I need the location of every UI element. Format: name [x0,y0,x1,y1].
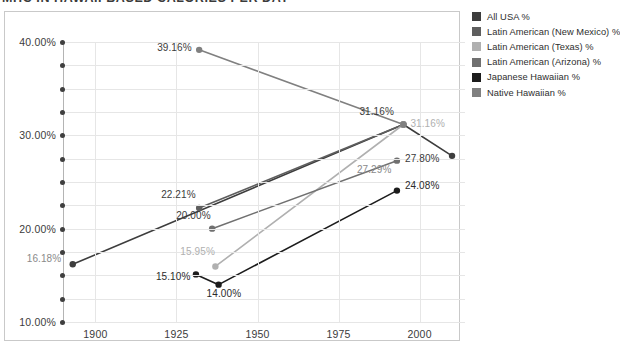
legend-item[interactable]: All USA % [472,9,612,24]
data-point-marker [212,263,218,269]
y-axis-label: 20.00% [19,223,56,235]
gridline-vertical [95,42,96,322]
data-point-marker [196,47,202,53]
gridline-vertical [339,42,340,322]
gridline-horizontal [63,205,465,206]
legend-item-label: Latin American (New Mexico) % [487,27,620,37]
series-line [73,125,452,265]
legend-swatch-icon [472,42,481,51]
legend-item[interactable]: Native Hawaiian % [472,85,612,100]
plot-area: 39.16%31.16%31.16%27.80%27.29%24.08%22.2… [63,42,465,322]
data-point-label: 27.29% [357,164,392,175]
data-point-label: 15.95% [180,246,215,257]
y-axis-label-wrap: 10.00% [5,316,56,328]
legend-swatch-icon [472,27,481,36]
legend-item[interactable]: Latin American (Arizona) % [472,55,612,70]
gridline-horizontal [63,135,465,136]
gridline-horizontal [63,299,465,300]
chart-legend: All USA %Latin American (New Mexico) %La… [472,9,612,100]
y-axis-label: 40.00% [19,36,56,48]
y-axis-tick [60,157,65,162]
gridline-horizontal [63,322,465,323]
gridline-horizontal [63,275,465,276]
data-point-label: 31.16% [410,118,445,129]
gridline-horizontal [63,229,465,230]
data-point-marker [400,121,406,127]
legend-item-label: Japanese Hawaiian % [487,72,580,82]
x-axis-label: 2000 [395,328,445,340]
data-point-label: 39.16% [157,42,192,53]
data-point-label: 20.00% [176,210,211,221]
legend-item-label: Latin American (Texas) % [487,42,594,52]
x-axis-label: 1925 [151,328,201,340]
y-axis-label-wrap: 20.00% [5,223,56,235]
legend-item[interactable]: Japanese Hawaiian % [472,70,612,85]
legend-item[interactable]: Latin American (Texas) % [472,39,612,54]
data-point-label: 14.00% [207,288,242,299]
legend-item-label: Native Hawaiian % [487,88,566,98]
y-axis-label: 10.00% [19,316,56,328]
y-axis-label: 30.00% [19,129,56,141]
y-axis-tick [60,87,65,92]
y-axis-label-wrap: 30.00% [5,129,56,141]
chart-title: MHC IN HAWAII BASED CALORIES PER DAY [2,0,289,5]
data-point-label: 16.18% [27,253,62,264]
x-axis-label: 1900 [70,328,120,340]
y-axis-tick [60,110,65,115]
series-line [215,125,403,267]
legend-swatch-icon [472,88,481,97]
data-point-marker [394,187,400,193]
legend-item-label: All USA % [487,12,530,22]
legend-item-label: Latin American (Arizona) % [487,57,601,67]
y-axis-label-wrap: 40.00% [5,36,56,48]
gridline-horizontal [63,42,465,43]
data-point-label: 15.10% [156,271,191,282]
gridline-horizontal [63,112,465,113]
legend-swatch-icon [472,12,481,21]
plot-frame: 39.16%31.16%31.16%27.80%27.29%24.08%22.2… [4,11,460,341]
legend-swatch-icon [472,58,481,67]
y-axis-tick [60,227,65,232]
y-axis-tick [60,320,65,325]
x-axis-label: 1950 [233,328,283,340]
y-axis-tick [60,297,65,302]
data-point-label: 27.80% [405,153,440,164]
x-axis-label: 1975 [314,328,364,340]
gridline-vertical [258,42,259,322]
data-point-label: 22.21% [161,189,196,200]
gridline-horizontal [63,65,465,66]
gridline-horizontal [63,89,465,90]
legend-item[interactable]: Latin American (New Mexico) % [472,24,612,39]
y-axis-tick [60,40,65,45]
y-axis-tick [60,180,65,185]
gridline-horizontal [63,252,465,253]
legend-swatch-icon [472,73,481,82]
data-point-marker [70,261,76,267]
data-point-label: 31.16% [359,106,394,117]
y-axis-tick [60,250,65,255]
data-point-label: 24.08% [405,180,440,191]
